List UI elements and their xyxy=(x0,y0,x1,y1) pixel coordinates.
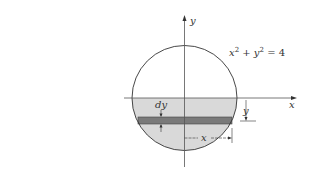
x-dimension-arrow-icon xyxy=(228,137,232,140)
circle-equation: x2 + y2 = 4 xyxy=(229,46,285,58)
y-dimension-arrow-icon xyxy=(245,117,248,121)
y-axis-label: y xyxy=(189,15,196,26)
x-axis-label: x xyxy=(289,99,295,110)
y-axis-arrow-icon xyxy=(183,15,187,21)
horizontal-strip xyxy=(138,117,232,124)
dy-label: dy xyxy=(155,99,167,110)
circle-area-diagram: x y x2 + y2 = 4 dy y x xyxy=(0,0,315,190)
y-dimension-label: y xyxy=(242,105,249,116)
x-dimension-label: x xyxy=(201,132,207,143)
